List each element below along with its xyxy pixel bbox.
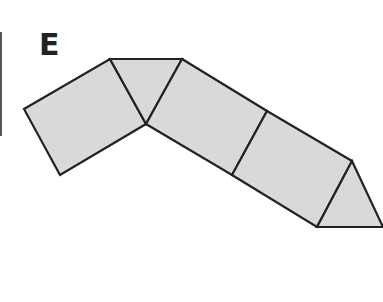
net-diagram: E xyxy=(0,0,383,302)
net-shapes xyxy=(0,0,383,302)
